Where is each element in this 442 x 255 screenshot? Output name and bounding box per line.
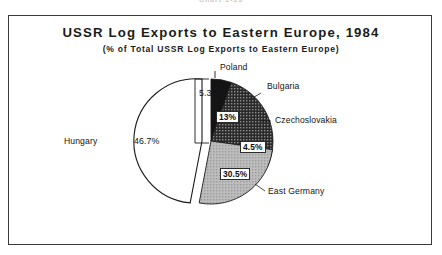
chart-frame: USSR Log Exports to Eastern Europe, 1984… xyxy=(8,15,432,245)
value-czechoslovakia: 4.5% xyxy=(240,141,266,153)
label-poland: Poland xyxy=(220,62,247,72)
label-czechoslovakia: Czechoslovakia xyxy=(275,115,337,125)
value-poland: 5.3% xyxy=(199,88,219,98)
pie-chart-svg xyxy=(9,16,433,246)
pie-plot-area: Poland Bulgaria Czechoslovakia East Germ… xyxy=(9,16,433,246)
value-bulgaria: 13% xyxy=(216,111,239,123)
cut-off-caption: Chart 1-13 xyxy=(0,0,442,3)
label-hungary: Hungary xyxy=(64,136,97,146)
label-bulgaria: Bulgaria xyxy=(267,81,300,91)
label-east-germany: East Germany xyxy=(268,186,324,196)
screenshot-root: Chart 1-13 USSR Log Exports to Eastern E… xyxy=(0,0,442,255)
east-germany-leader-line xyxy=(255,184,265,191)
value-east-germany: 30.5% xyxy=(220,168,250,180)
value-hungary: 46.7% xyxy=(134,136,159,146)
